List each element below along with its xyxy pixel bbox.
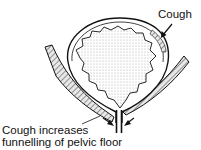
- funnelling-label-line-2: funnelling of pelvic floor: [2, 136, 122, 148]
- cough-label: Cough: [158, 8, 192, 20]
- funnelling-label-line-1: Cough increases: [2, 124, 88, 136]
- diagram-canvas: Cough Cough increases funnelling of pelv…: [0, 0, 201, 150]
- label-leader-line: [82, 116, 100, 124]
- funnelling-arrow-right-icon: [124, 118, 134, 126]
- cough-arrow-icon: [161, 24, 172, 38]
